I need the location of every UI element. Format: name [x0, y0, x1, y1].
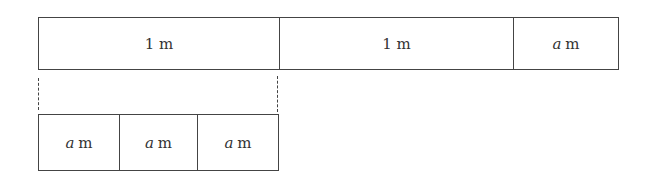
bottom-segment-3-variable: a	[224, 134, 233, 152]
bottom-segment-3-unit: m	[237, 134, 251, 152]
top-segment-2-label: 1 m	[382, 35, 411, 53]
bottom-segment-1-unit: m	[78, 134, 92, 152]
top-segment-3: am	[513, 18, 618, 69]
bottom-segment-1-variable: a	[65, 134, 74, 152]
top-segment-3-unit: m	[565, 35, 579, 53]
bottom-segment-1: am	[39, 115, 119, 170]
bottom-segment-2: am	[119, 115, 197, 170]
top-tape-bar: 1 m 1 m am	[38, 17, 619, 70]
top-segment-1-label: 1 m	[145, 35, 174, 53]
top-segment-2: 1 m	[279, 18, 513, 69]
top-segment-1: 1 m	[39, 18, 279, 69]
bottom-segment-2-variable: a	[145, 134, 154, 152]
bottom-tape-bar: am am am	[38, 114, 279, 171]
dashed-guide-right	[277, 76, 278, 112]
dashed-guide-left	[38, 78, 39, 110]
bottom-segment-2-unit: m	[158, 134, 172, 152]
top-segment-3-variable: a	[552, 35, 561, 53]
bottom-segment-3: am	[197, 115, 278, 170]
